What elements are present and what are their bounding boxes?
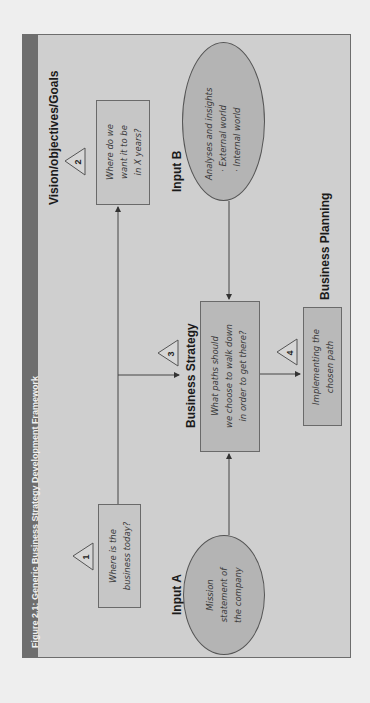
step-4-number: 4	[285, 348, 295, 358]
step-2-text: Where do wewant it to bein X years?	[103, 114, 145, 190]
step-4-text: Implementing thechosen path	[309, 324, 337, 410]
label-business-strategy: Business Strategy	[184, 323, 198, 428]
input-a-text: Missionstatement ofthe company	[203, 555, 245, 635]
step-1-number: 1	[81, 552, 91, 562]
label-input-b: Input B	[170, 151, 184, 192]
step-1-text: Where is thebusiness today?	[106, 514, 134, 598]
label-input-a: Input A	[170, 574, 184, 615]
step-2-number: 2	[73, 157, 83, 167]
label-vision: Vision/objectives/Goals	[47, 71, 61, 206]
input-b-text: Analyses and insights· External world· I…	[202, 60, 244, 180]
step-3-number: 3	[166, 349, 176, 359]
step-3-text: What paths shouldwe choose to walk downi…	[208, 312, 250, 440]
label-business-planning: Business Planning	[318, 193, 332, 300]
